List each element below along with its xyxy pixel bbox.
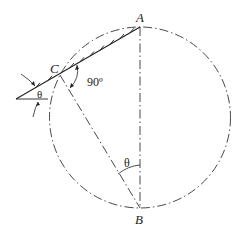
arrowhead-90-top	[75, 65, 79, 70]
label-A: A	[135, 10, 144, 25]
theta-incline-arrows	[21, 74, 38, 117]
label-90-degrees: 90º	[87, 75, 103, 89]
label-B: B	[135, 212, 143, 227]
label-C: C	[50, 61, 59, 76]
arrowhead-upper	[31, 81, 35, 86]
label-theta-B: θ	[124, 156, 130, 170]
label-theta-incline: θ	[37, 88, 42, 100]
arrowhead-lower	[36, 102, 40, 106]
chord-incline-diagram: A B C 90º θ θ	[0, 0, 241, 239]
diagram-canvas: A B C 90º θ θ	[0, 0, 241, 239]
incline-line	[16, 27, 140, 99]
chord-CB	[60, 75, 140, 208]
